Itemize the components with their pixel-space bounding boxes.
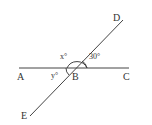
geometry-diagram: A B C D E x° 30° y°	[0, 0, 152, 125]
point-label-c: C	[123, 71, 130, 82]
angle-label-y: y°	[51, 71, 58, 80]
point-label-d: D	[113, 12, 120, 23]
angle-arc-y	[66, 68, 69, 75]
point-label-e: E	[21, 110, 27, 121]
angle-label-30: 30°	[89, 52, 100, 61]
point-label-b: B	[72, 71, 79, 82]
angle-label-x: x°	[60, 52, 67, 61]
point-label-a: A	[17, 71, 25, 82]
